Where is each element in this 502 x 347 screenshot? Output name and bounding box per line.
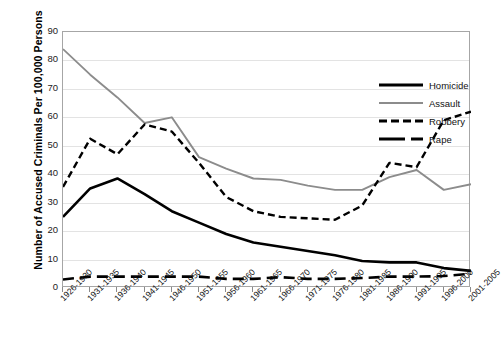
x-axis-tick-labels: 1926-19301931-19351936-19401941-19451946…: [0, 0, 491, 347]
line-chart: Number of Accused Criminals Per 100,000 …: [0, 0, 491, 347]
